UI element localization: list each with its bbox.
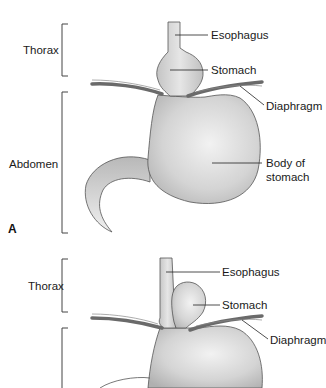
abdomen-bracket-b [62, 328, 68, 388]
esophagus-label-b: Esophagus [222, 266, 280, 279]
thorax-label-a: Thorax [23, 44, 59, 57]
body-of-stomach-label-line1: Body of [266, 157, 305, 170]
panel-a-drawing [62, 22, 264, 233]
thorax-label-b: Thorax [28, 280, 64, 293]
esophagus-label-a: Esophagus [211, 29, 269, 42]
diaphragm-label-a: Diaphragm [266, 100, 322, 113]
abdomen-bracket-a [62, 92, 68, 233]
abdomen-label-a: Abdomen [9, 158, 58, 171]
hiatal-hernia-figure: Thorax Abdomen Esophagus Stomach Diaphra… [0, 0, 326, 388]
stomach-body-b [148, 326, 262, 388]
duodenum-a [85, 157, 150, 232]
panel-letter-a: A [8, 222, 17, 236]
diaphragm-left-a [92, 84, 162, 94]
stomach-label-b: Stomach [222, 299, 267, 312]
body-of-stomach-label-line2: stomach [266, 171, 309, 184]
esophagus-a [157, 22, 203, 96]
stomach-label-a: Stomach [211, 64, 256, 77]
anatomy-illustration [0, 0, 326, 388]
stomach-body-a [148, 95, 260, 204]
diaphragm-label-b: Diaphragm [270, 334, 326, 347]
diaphragm-left-b [92, 318, 162, 328]
thorax-bracket-a [62, 24, 68, 76]
